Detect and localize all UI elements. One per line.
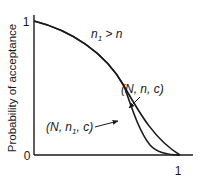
y-tick-label-1: 1 [23, 15, 30, 29]
y-tick-label-0: 0 [24, 149, 31, 163]
y-axis-title: Probability of acceptance [6, 24, 18, 153]
curve-label-n: (N, n, c) [121, 82, 164, 96]
arrow-to-inner-curve [95, 121, 118, 127]
x-tick-label-1: 1 [175, 164, 182, 178]
curve-label-n1: (N, n1, c) [46, 120, 93, 136]
oc-curve-chart: 1 0 1 Probability of acceptance n1 > n (… [0, 0, 201, 180]
condition-annotation: n1 > n [91, 27, 123, 43]
